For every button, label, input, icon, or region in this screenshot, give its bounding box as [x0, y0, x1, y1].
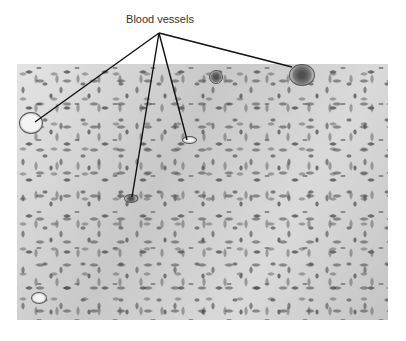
blood-vessel-left [19, 112, 43, 134]
blood-vessel-bottom-left [31, 292, 47, 304]
blood-vessels-label: Blood vessels [124, 13, 196, 25]
leader-line-upper-right [159, 33, 292, 67]
tissue-texture [17, 64, 388, 320]
blood-vessel-top-middle [209, 70, 223, 84]
blood-vessel-lower-middle [124, 194, 138, 203]
blood-vessel-middle [182, 136, 197, 144]
blood-vessel-upper-right [289, 64, 315, 86]
tissue-micrograph [17, 64, 388, 320]
